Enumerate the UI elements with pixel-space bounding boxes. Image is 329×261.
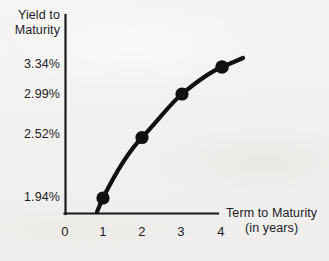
y-tick-label-3-34: 3.34% <box>4 57 60 72</box>
yield-curve-chart: Yield to Maturity 3.34% 2.99% 2.52% 1.94… <box>0 0 329 261</box>
yield-curve-line <box>97 58 243 212</box>
y-axis-title-line1: Yield to <box>18 8 60 22</box>
data-point-1 <box>96 191 109 204</box>
x-axis-title-line1: Term to Maturity <box>226 206 317 220</box>
x-tick-label-2: 2 <box>134 224 150 239</box>
x-tick-label-0: 0 <box>57 224 73 239</box>
y-tick-label-1-94: 1.94% <box>4 190 60 205</box>
x-tick-label-3: 3 <box>173 224 189 239</box>
data-point-4 <box>215 60 229 74</box>
y-axis-title-line2: Maturity <box>15 23 60 37</box>
y-axis-title: Yield to Maturity <box>4 8 60 38</box>
y-tick-label-2-52: 2.52% <box>4 127 60 142</box>
data-point-2 <box>135 131 148 144</box>
x-axis-title-line2: (in years) <box>226 221 317 236</box>
data-point-3 <box>175 87 188 100</box>
x-tick-label-1: 1 <box>95 224 111 239</box>
x-axis-title: Term to Maturity (in years) <box>226 206 317 236</box>
y-tick-label-2-99: 2.99% <box>4 87 60 102</box>
